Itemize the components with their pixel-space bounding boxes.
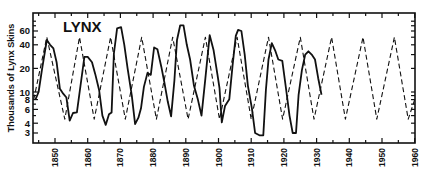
- plot-area: 1850186018701880189019001910192019301940…: [6, 13, 420, 167]
- lynx-chart: 1850186018701880189019001910192019301940…: [0, 0, 427, 176]
- x-tick-label: 1920: [279, 148, 289, 167]
- x-tick-label: 1870: [115, 148, 125, 167]
- x-tick-label: 1850: [50, 148, 60, 167]
- y-tick-label: 20: [19, 63, 30, 74]
- x-tick-label: 1890: [181, 148, 191, 167]
- y-tick-label: 10: [19, 87, 30, 98]
- chart-title: LYNX: [63, 18, 102, 35]
- y-tick-label: 40: [19, 39, 30, 50]
- x-tick-label: 1960: [410, 148, 420, 167]
- x-tick-label: 1880: [148, 148, 158, 167]
- x-tick-label: 1860: [83, 148, 93, 167]
- y-tick-label: 6: [25, 104, 30, 115]
- x-tick-label: 1950: [377, 148, 387, 167]
- x-tick-label: 1930: [312, 148, 322, 167]
- y-axis-label: Thousands of Lynx Skins: [6, 24, 16, 133]
- y-tick-label: 3: [25, 127, 30, 138]
- x-tick-label: 1900: [214, 148, 224, 167]
- y-tick-label: 60: [19, 25, 30, 36]
- y-tick-label: 4: [25, 118, 31, 129]
- x-tick-label: 1910: [246, 148, 256, 167]
- x-tick-label: 1940: [344, 148, 354, 167]
